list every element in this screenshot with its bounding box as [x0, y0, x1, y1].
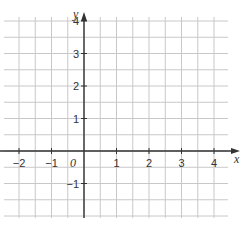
y-tick-label: 3: [73, 48, 79, 60]
axes: [0, 12, 240, 218]
y-axis-arrow-icon: [81, 12, 87, 21]
origin-label: 0: [70, 156, 76, 170]
x-tick-label: −2: [13, 157, 26, 169]
x-tick-label: 3: [178, 157, 184, 169]
x-tick-label: −1: [45, 157, 58, 169]
coordinate-plane: −2−11234−11234 x y 0: [0, 0, 242, 229]
x-tick-label: 4: [211, 157, 217, 169]
y-axis-label: y: [72, 7, 79, 21]
x-axis-label: x: [233, 152, 240, 166]
grid-lines: [4, 17, 228, 218]
y-tick-label: 2: [73, 80, 79, 92]
x-tick-label: 2: [146, 157, 152, 169]
y-tick-label: −1: [66, 178, 79, 190]
x-tick-label: 1: [113, 157, 119, 169]
y-tick-label: 1: [73, 113, 79, 125]
